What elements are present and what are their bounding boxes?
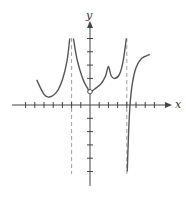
function-graph: x y — [0, 0, 186, 197]
open-point — [88, 90, 92, 94]
y-axis-label: y — [85, 9, 93, 22]
middle-branch — [73, 39, 126, 92]
right-branch — [127, 54, 150, 171]
open-points — [88, 90, 92, 94]
left-branch — [37, 39, 70, 98]
axes — [12, 21, 172, 186]
x-axis-label: x — [175, 98, 182, 111]
x-axis-arrow-icon — [165, 102, 172, 108]
y-axis-arrow-icon — [87, 21, 93, 28]
